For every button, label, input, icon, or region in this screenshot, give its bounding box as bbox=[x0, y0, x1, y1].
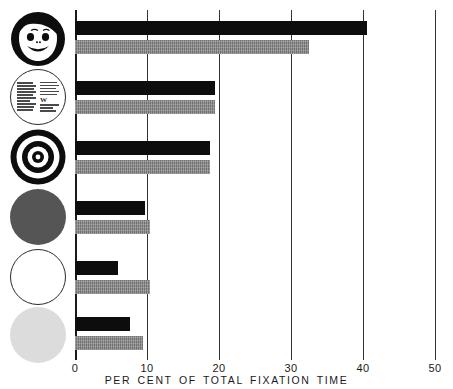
stimulus-white-disc bbox=[8, 248, 68, 305]
bar-red-disc-upper-black-bar bbox=[75, 201, 145, 215]
stimulus-red-disc bbox=[8, 188, 68, 245]
bar-printed-matter-lower-gray-bar bbox=[75, 100, 215, 114]
tick-label-0: 0 bbox=[72, 362, 79, 374]
white-disc-icon bbox=[10, 249, 66, 305]
bar-printed-matter-upper-black-bar bbox=[75, 81, 215, 95]
stimulus-printed-matter: W bbox=[8, 68, 68, 125]
gridline-30 bbox=[291, 10, 292, 360]
bar-yellow-disc-upper-black-bar bbox=[75, 317, 130, 331]
bar-white-disc-lower-gray-bar bbox=[75, 280, 150, 294]
stimulus-bulls-eye bbox=[8, 128, 68, 185]
tick-label-30: 30 bbox=[284, 362, 297, 374]
bar-bulls-eye-lower-gray-bar bbox=[75, 160, 210, 174]
red-disc-icon bbox=[10, 189, 66, 245]
bar-red-disc-lower-gray-bar bbox=[75, 220, 150, 234]
tick-label-10: 10 bbox=[140, 362, 153, 374]
bar-white-disc-upper-black-bar bbox=[75, 261, 118, 275]
bulls-eye-icon bbox=[10, 129, 66, 185]
gridline-0 bbox=[75, 10, 77, 360]
x-axis-label: PER CENT OF TOTAL FIXATION TIME bbox=[0, 374, 453, 386]
tick-label-40: 40 bbox=[356, 362, 369, 374]
stimulus-column: W bbox=[4, 10, 72, 360]
tick-label-50: 50 bbox=[428, 362, 441, 374]
yellow-disc-icon bbox=[10, 307, 66, 363]
newsprint-columns: W bbox=[17, 74, 59, 120]
schematic-face-icon bbox=[10, 11, 66, 67]
gridline-10 bbox=[147, 10, 148, 360]
newsprint-column-right: W bbox=[40, 74, 59, 120]
gridline-50 bbox=[435, 10, 436, 360]
gridline-40 bbox=[363, 10, 364, 360]
bar-face-upper-black-bar bbox=[75, 21, 367, 35]
tick-label-20: 20 bbox=[212, 362, 225, 374]
newsprint-column-left bbox=[17, 74, 36, 120]
fixation-time-bar-chart: W bbox=[0, 0, 453, 389]
printed-matter-icon: W bbox=[10, 69, 66, 125]
bar-bulls-eye-upper-black-bar bbox=[75, 141, 210, 155]
bar-yellow-disc-lower-gray-bar bbox=[75, 336, 143, 350]
stimulus-yellow-disc bbox=[8, 306, 68, 363]
stimulus-face bbox=[8, 10, 68, 67]
plot-area bbox=[75, 10, 435, 360]
bar-face-lower-gray-bar bbox=[75, 40, 309, 54]
drop-cap: W bbox=[40, 97, 59, 103]
gridline-20 bbox=[219, 10, 220, 360]
